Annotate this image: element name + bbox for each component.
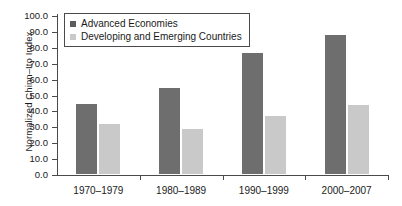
x-axis-tick-label: 1980–1989 [136, 185, 226, 196]
bar [347, 104, 370, 175]
x-axis-tick-label: 2000–2007 [302, 185, 392, 196]
y-axis-tick-label: 40.0 [4, 105, 48, 116]
y-axis-tick [52, 159, 57, 160]
bar [98, 123, 121, 175]
x-axis-tick-label: 1970–1979 [53, 185, 143, 196]
bar [75, 103, 98, 175]
legend-item: Developing and Emerging Countries [70, 30, 242, 43]
y-axis-tick [52, 64, 57, 65]
legend-item: Advanced Economies [70, 17, 242, 30]
legend-swatch-icon [70, 34, 76, 40]
y-axis-tick-label: 30.0 [4, 121, 48, 132]
y-axis-tick [52, 48, 57, 49]
y-axis-tick-label: 10.0 [4, 153, 48, 164]
y-axis-tick [52, 111, 57, 112]
bar [324, 34, 347, 176]
y-axis-line [57, 14, 58, 176]
y-axis-tick-label: 50.0 [4, 90, 48, 101]
y-axis-tick-label: 90.0 [4, 26, 48, 37]
y-axis-tick-label: 100.0 [4, 10, 48, 21]
y-axis-tick [52, 32, 57, 33]
bar [264, 115, 287, 175]
bar [241, 52, 264, 175]
bar [181, 128, 204, 175]
x-axis-tick [305, 175, 306, 180]
legend: Advanced Economies Developing and Emergi… [64, 13, 250, 47]
y-axis-tick [52, 96, 57, 97]
y-axis-tick [52, 127, 57, 128]
y-axis-tick-label: 60.0 [4, 74, 48, 85]
y-axis-tick-label: 0.0 [4, 169, 48, 180]
y-axis-tick [52, 175, 57, 176]
legend-swatch-icon [70, 21, 76, 27]
y-axis-tick [52, 16, 57, 17]
x-axis-tick-label: 1990–1999 [219, 185, 309, 196]
bar [158, 87, 181, 175]
x-axis-tick [388, 175, 389, 180]
y-axis-tick-label: 80.0 [4, 42, 48, 53]
legend-label: Developing and Emerging Countries [81, 30, 242, 43]
y-axis-tick [52, 80, 57, 81]
x-axis-tick [223, 175, 224, 180]
y-axis-tick-label: 20.0 [4, 137, 48, 148]
legend-label: Advanced Economies [81, 17, 178, 30]
bar-chart: Normalized Chinn–Ito Index 100.090.080.0… [0, 0, 402, 206]
y-axis-tick [52, 143, 57, 144]
x-axis-tick [140, 175, 141, 180]
y-axis-tick-label: 70.0 [4, 58, 48, 69]
